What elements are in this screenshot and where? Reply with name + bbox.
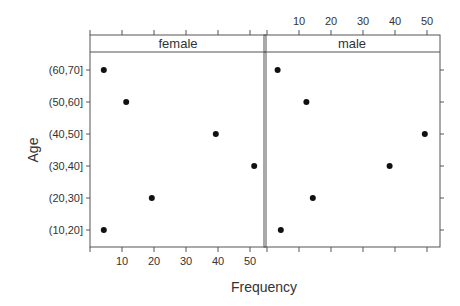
data-point [149, 195, 155, 201]
panel-border [264, 35, 440, 247]
data-point [251, 163, 257, 169]
x-tick-label: 30 [180, 255, 192, 267]
strip-label-male: male [338, 36, 366, 51]
data-point [123, 99, 129, 105]
x-tick-label: 40 [212, 255, 224, 267]
x-tick-label: 10 [116, 255, 128, 267]
strip-label-female: female [158, 36, 197, 51]
x-tick-label: 50 [244, 255, 256, 267]
data-point [422, 131, 428, 137]
y-tick-label: (30,40] [49, 160, 83, 172]
y-tick-label: (20,30] [49, 192, 83, 204]
panel-border [90, 35, 266, 247]
data-point [303, 99, 309, 105]
y-axis-label: Age [25, 137, 41, 162]
trellis-dotplot: (10,20](20,30](30,40](40,50](50,60](60,7… [0, 0, 460, 306]
data-point [310, 195, 316, 201]
panels-group: (10,20](20,30](30,40](40,50](50,60](60,7… [49, 15, 444, 267]
y-tick-label: (50,60] [49, 96, 83, 108]
data-point [275, 67, 281, 73]
x-tick-label: 30 [357, 15, 369, 27]
data-point [101, 67, 107, 73]
panel-male: male1020304050 [264, 15, 440, 252]
x-tick-label: 50 [421, 15, 433, 27]
y-tick-label: (40,50] [49, 128, 83, 140]
data-point [387, 163, 393, 169]
chart-canvas: (10,20](20,30](30,40](40,50](50,60](60,7… [0, 0, 460, 306]
data-point [278, 227, 284, 233]
x-axis-label: Frequency [231, 279, 297, 295]
y-tick-label: (10,20] [49, 224, 83, 236]
x-tick-label: 20 [148, 255, 160, 267]
x-tick-label: 40 [389, 15, 401, 27]
panel-female: female1020304050 [90, 30, 266, 267]
y-tick-label: (60,70] [49, 64, 83, 76]
data-point [101, 227, 107, 233]
x-tick-label: 10 [293, 15, 305, 27]
data-point [213, 131, 219, 137]
x-tick-label: 20 [325, 15, 337, 27]
